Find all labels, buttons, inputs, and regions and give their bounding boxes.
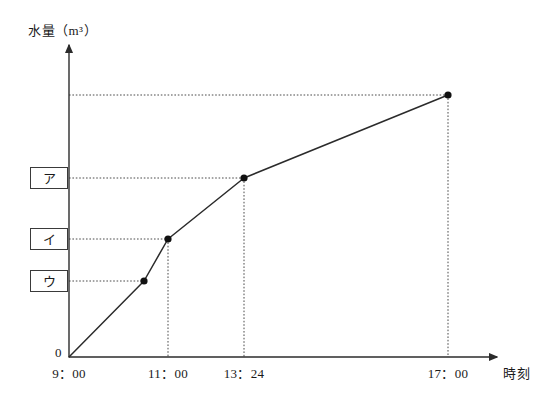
data-polyline bbox=[69, 95, 448, 357]
guide-lines bbox=[69, 95, 448, 357]
x-tick-label: 17：00 bbox=[428, 363, 469, 382]
data-point-marker bbox=[164, 235, 171, 242]
data-point-marker bbox=[240, 174, 247, 181]
data-markers bbox=[140, 91, 451, 284]
x-tick-label: 13：24 bbox=[224, 363, 265, 382]
chart-figure: 水量（m³） 時刻 0 9：0011：0013：2417：00 アイウ bbox=[0, 0, 550, 395]
y-axis-title: 水量（m³） bbox=[28, 20, 97, 39]
x-axis-title: 時刻 bbox=[503, 363, 530, 382]
x-tick-label: 11：00 bbox=[148, 363, 188, 382]
y-boxed-label-イ: イ bbox=[30, 228, 68, 250]
line-chart-plot bbox=[0, 0, 550, 395]
data-point-marker bbox=[140, 277, 147, 284]
origin-label: 0 bbox=[55, 345, 62, 361]
y-boxed-label-ア: ア bbox=[30, 167, 68, 189]
x-tick-label: 9：00 bbox=[52, 363, 86, 382]
data-line bbox=[69, 95, 448, 357]
axes bbox=[69, 45, 497, 357]
data-point-marker bbox=[444, 91, 451, 98]
y-boxed-label-ウ: ウ bbox=[30, 270, 68, 292]
